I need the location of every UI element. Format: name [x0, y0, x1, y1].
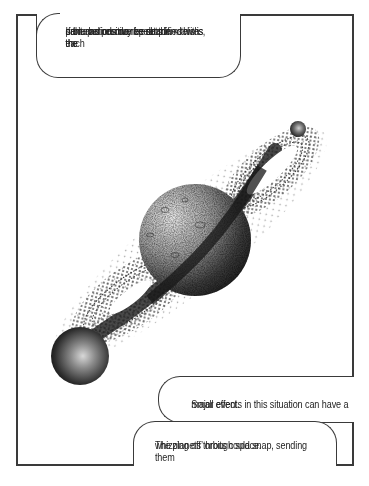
- callout-orbits-snap: The planets’ orbits could snap, sending …: [133, 421, 337, 466]
- large-moon-sphere: [51, 327, 109, 385]
- callout-small-events: Small events in this situation can have …: [158, 376, 354, 423]
- callout-resonance: If the periods do repeat themselves, the…: [36, 14, 241, 78]
- small-moon-sphere: [290, 121, 306, 137]
- central-planet: [139, 168, 262, 300]
- callout-line: whizzing off through space.: [155, 440, 317, 452]
- callout-line: major effect.: [191, 399, 349, 411]
- callout-line: same as positive feedback.: [66, 26, 216, 38]
